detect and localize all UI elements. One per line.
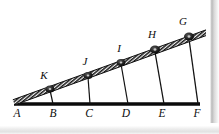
diagram-canvas: K J I H G A B C D E F [0,0,219,134]
pulley-label-H: H [147,28,157,40]
drop-line-H-E [155,52,164,104]
pulley-label-J: J [83,55,89,67]
pulley-J [84,72,93,79]
base-label-A: A [12,107,21,119]
diagram-figure: K J I H G A B C D E F [0,0,219,134]
inclined-plane-pulley-svg: K J I H G A B C D E F [0,0,219,134]
base-label-B: B [49,107,56,119]
pulley-I [117,59,126,66]
pulley-label-I: I [116,42,122,54]
base-label-C: C [85,107,93,119]
base-label-F: F [192,107,201,119]
pulley-G [184,33,194,41]
drop-line-J-C [88,77,90,104]
drop-line-G-F [189,39,198,104]
pulley-K [46,85,55,92]
drop-line-I-D [121,64,128,104]
base-label-D: D [121,107,131,119]
pulley-label-G: G [179,15,187,27]
hatched-rope-band [13,30,209,105]
base-label-E: E [157,107,165,119]
pulley-label-K: K [39,69,48,81]
drop-lines [50,39,198,104]
pulley-H [150,46,160,54]
